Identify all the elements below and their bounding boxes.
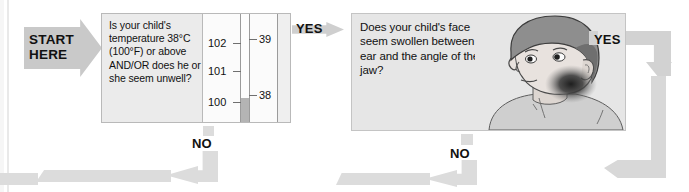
mercury-level [241, 98, 249, 122]
label-f-101: 101 [208, 66, 226, 77]
question-panel-fever: Is your child's temperature 38°C (100°F)… [101, 13, 291, 123]
thermometer-graphic: 102 101 100 39 38 [202, 14, 290, 122]
question-panel-swelling: Does your child's face seem swollen betw… [351, 13, 626, 131]
tick-f-102 [233, 43, 241, 44]
yes-label-1: YES [296, 21, 323, 36]
tick-f-101 [233, 71, 241, 72]
start-here-label: START HERE [24, 33, 74, 62]
label-f-100: 100 [208, 97, 226, 108]
no-arrow-1-elbow [196, 151, 218, 182]
no-arrow-1-bar [36, 170, 171, 182]
no-label-2: NO [450, 146, 470, 161]
tick-c-38 [249, 95, 257, 96]
flowchart-canvas: START HERE Is your child's temperature 3… [0, 0, 689, 192]
yes-label-2: YES [594, 32, 621, 47]
question-text-fever: Is your child's temperature 38°C (100°F)… [102, 14, 202, 122]
no-arrow-2-elbow [455, 160, 477, 185]
page-edge-line [7, 0, 9, 192]
right-connector-rail [651, 76, 666, 168]
label-c-39: 39 [259, 34, 271, 45]
no-arrow-1-stub [203, 126, 214, 136]
right-connector-elbow [604, 160, 666, 178]
label-f-102: 102 [208, 38, 226, 49]
no-label-1: NO [192, 136, 212, 151]
tick-c-39 [249, 39, 257, 40]
bottom-left-connector-stub [0, 173, 38, 185]
label-c-38: 38 [259, 90, 271, 101]
thermometer-line-mid [249, 14, 250, 122]
thermometer-line-right [277, 14, 278, 122]
page-edge-artifact [0, 0, 4, 192]
no-arrow-2-stub [461, 134, 473, 145]
thermometer-right-edge [278, 14, 290, 122]
tick-f-100 [233, 102, 241, 103]
start-here-arrow: START HERE [24, 19, 102, 77]
no-arrow-2-bar [336, 173, 430, 185]
